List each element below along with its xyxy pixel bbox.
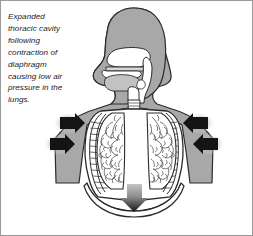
- diagram-caption: Expanded thoracic cavity following contr…: [8, 11, 80, 106]
- larynx: [128, 87, 139, 101]
- epiglottis-shape: [137, 80, 146, 89]
- right-lung: [147, 113, 176, 189]
- inhalation-diagram: Expanded thoracic cavity following contr…: [0, 0, 253, 236]
- hard-palate-shape: [106, 67, 149, 71]
- larynx-shape: [128, 87, 139, 101]
- hard-palate: [106, 67, 149, 71]
- left-lung: [97, 113, 125, 189]
- epiglottis: [137, 80, 146, 89]
- left-lung-shape: [97, 113, 125, 189]
